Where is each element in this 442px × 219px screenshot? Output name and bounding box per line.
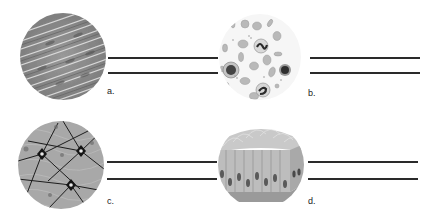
panel-label-a: a. <box>107 86 115 96</box>
panel-label-b: b. <box>308 88 316 98</box>
answer-line-b-1 <box>310 57 420 59</box>
answer-line-c-1 <box>107 161 217 163</box>
answer-line-a-1 <box>108 57 218 59</box>
blood-tissue-icon <box>219 14 301 100</box>
panel-label-c: c. <box>107 196 114 206</box>
smooth-muscle-tissue-icon <box>20 13 106 100</box>
answer-line-b-2 <box>310 72 420 74</box>
answer-line-d-2 <box>308 178 418 180</box>
panel-label-d: d. <box>308 196 316 206</box>
answer-line-a-2 <box>108 72 218 74</box>
nervous-tissue-icon <box>18 121 104 209</box>
ciliated-columnar-epithelium-icon <box>218 122 304 208</box>
answer-line-d-1 <box>308 161 418 163</box>
answer-line-c-2 <box>107 178 217 180</box>
